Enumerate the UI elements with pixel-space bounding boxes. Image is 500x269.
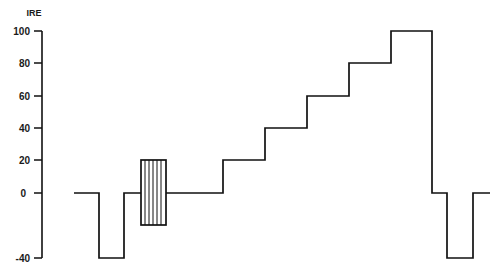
tick-label-60: 60 xyxy=(19,91,31,102)
tick-label-0: 0 xyxy=(20,188,26,199)
waveform-left-sync-and-staircase xyxy=(74,31,490,258)
waveform xyxy=(74,31,490,258)
tick-label-80: 80 xyxy=(19,58,31,69)
tick-label-100: 100 xyxy=(13,26,30,37)
tick-label-20: 20 xyxy=(19,155,31,166)
ire-waveform-diagram: IRE 100 80 60 40 20 0 -40 xyxy=(0,0,500,269)
color-burst xyxy=(141,160,166,225)
tick-label-minus-40: -40 xyxy=(16,253,31,264)
y-axis: IRE 100 80 60 40 20 0 -40 xyxy=(13,8,42,264)
y-axis-unit-label: IRE xyxy=(26,8,41,18)
tick-label-40: 40 xyxy=(19,123,31,134)
